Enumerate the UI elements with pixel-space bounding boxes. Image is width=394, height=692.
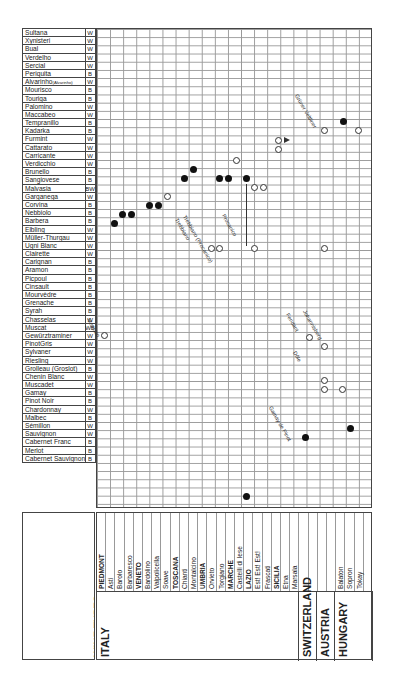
grape-row: Mourisco (23, 86, 85, 94)
region-column: Tokay (355, 513, 364, 591)
grape-name: Sémillon (25, 422, 50, 429)
grape-color: B (85, 258, 95, 266)
grape-row: Alvarinho(Alvarinho) (23, 78, 85, 86)
regions-panel: PIEDMONTAstiBaroloBarbarescoVENETOBardol… (96, 512, 372, 660)
grape-name: Mourvèdre (25, 291, 57, 298)
grape-row: Ugni Blanc (23, 242, 85, 250)
grape-color: B (85, 291, 95, 299)
grape-row: Sangiovese (23, 176, 85, 184)
grape-color: W (85, 62, 95, 70)
mark-ugni-torgiano (216, 245, 223, 252)
grape-name: Gamay (25, 389, 46, 396)
grape-row: Sémillon (23, 422, 85, 430)
grape-name: Verdelho (25, 54, 51, 61)
mark-fortified-marsala (284, 137, 290, 143)
grape-color: B (85, 455, 95, 463)
grape-color: W (85, 111, 95, 119)
grape-name: Elbling (25, 226, 45, 233)
mark-gamay-switzerland (302, 434, 309, 441)
grape-row: Nebbiolo (23, 209, 85, 217)
grape-row: Maccabeo (23, 111, 85, 119)
grape-name: Muscat (25, 324, 46, 331)
grape-name: Alvarinho (25, 78, 53, 85)
mark-barbera-asti (111, 220, 118, 227)
chart-grid: Moscato Trebbiano Trebbiano (Procanico) … (96, 28, 372, 508)
grape-name: Grenache (25, 299, 54, 306)
grape-row: Sercial (23, 62, 85, 70)
grape-color: W (85, 340, 95, 348)
region-column: Barbaresco (125, 513, 134, 591)
grape-color: B (85, 389, 95, 397)
grape-row: Chenin Blanc (23, 373, 85, 381)
region-label: VENETO (135, 562, 142, 589)
country-hungary: HUNGARY (335, 591, 373, 661)
grape-color: B (85, 70, 95, 78)
grape-name: Sercial (25, 62, 45, 69)
grape-name: Bual (25, 45, 38, 52)
grape-name: Riesling (25, 357, 48, 364)
mark-furmint-switzerland (321, 127, 328, 134)
grape-color: B (85, 119, 95, 127)
grape-color: W (85, 135, 95, 143)
grape-name: Ugni Blanc (25, 242, 57, 249)
grape-row: Corvina (23, 201, 85, 209)
grape-color: W (85, 381, 95, 389)
region-column: Valpolicella (152, 513, 161, 591)
grape-name: Sangiovese (25, 176, 59, 183)
region-label: Barbaresco (126, 555, 133, 589)
region-column: VENETO (134, 513, 143, 591)
country-label: AUSTRIA (319, 608, 331, 657)
grape-color: W (85, 250, 95, 258)
grape-name: Clairette (25, 250, 50, 257)
region-column: TOSCANA (171, 513, 180, 591)
mark-muscat-switzerland (321, 343, 328, 350)
grape-color: W (85, 348, 95, 356)
region-column: LAZIO (244, 513, 253, 591)
grape-name: Periquita (25, 70, 51, 77)
mark-sangiovese-torgiano (216, 175, 223, 182)
grape-name: Kadarka (25, 127, 50, 134)
grape-row: Malvasia (23, 185, 85, 193)
grape-name: Muscadet (25, 381, 54, 388)
grape-row: Periquita (23, 70, 85, 78)
mark-riesling-austria (321, 386, 328, 393)
grape-name: Maccabeo (25, 111, 55, 118)
region-label: Barolo (116, 570, 123, 589)
grape-color: B (85, 299, 95, 307)
grape-name: Furmint (25, 135, 47, 142)
grape-row: Carricante (23, 152, 85, 160)
grape-row: Cattarato (23, 144, 85, 152)
region-column: Orvieto (207, 513, 216, 591)
grape-row: Xynisteri (23, 37, 85, 45)
region-column: Castelli di Iese (235, 513, 244, 591)
mark-pinot-hungary (347, 425, 354, 432)
grape-color: W (85, 226, 95, 234)
region-column: MARCHE (226, 513, 235, 591)
grape-row: Carignan (23, 258, 85, 266)
grape-row: Grenache (23, 299, 85, 307)
grape-color: W (85, 430, 95, 438)
grape-color: W (85, 242, 95, 250)
grape-color-column: WWWWWBWBBWWBBWWWWBBBWWBBBWWWWBBBBBBBWWBW… (85, 28, 96, 463)
region-label: Torgiano (218, 564, 225, 589)
grape-row: Muscadet (23, 381, 85, 389)
grape-row: Verdelho (23, 54, 85, 62)
grape-row: Aramon (23, 266, 85, 274)
grape-name: Syrah (25, 307, 42, 314)
grape-row: Verdicchio (23, 160, 85, 168)
grape-color: B (85, 447, 95, 455)
grape-row: Palomino (23, 103, 85, 111)
grape-row: Cinsault (23, 283, 85, 291)
grape-color: W (85, 103, 95, 111)
mark-nebbiolo-barolo (119, 211, 126, 218)
region-column: PIEDMONT (97, 513, 106, 591)
grape-row: Pinot Noir (23, 397, 85, 405)
region-column: Sopron (345, 513, 354, 591)
grape-color: W (85, 160, 95, 168)
region-column: Torgiano (217, 513, 226, 591)
grape-color: B (85, 86, 95, 94)
region-label: Bardolino (144, 561, 151, 589)
grape-alt-name: (Alvarinho) (53, 80, 73, 85)
country-austria: AUSTRIA (317, 591, 335, 661)
mark-muller-austria (321, 245, 328, 252)
